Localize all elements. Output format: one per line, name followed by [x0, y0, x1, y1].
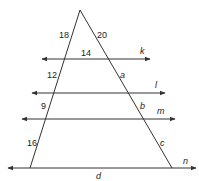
label-right-20: 20 [97, 30, 107, 40]
label-line-m: m [157, 106, 165, 116]
label-right-c: c [160, 138, 165, 148]
label-left-9: 9 [41, 101, 46, 111]
label-line-l: l [155, 80, 158, 90]
label-left-16: 16 [27, 138, 37, 148]
triangle-right-side [80, 10, 172, 168]
label-line-n: n [183, 156, 188, 166]
label-right-a: a [120, 70, 125, 80]
label-base-d: d [96, 171, 102, 181]
diagram: 18 12 9 16 20 a b c 14 d k l m n [0, 0, 199, 181]
label-left-12: 12 [47, 70, 57, 80]
label-right-b: b [140, 101, 145, 111]
label-k-segment: 14 [81, 48, 91, 58]
label-line-k: k [140, 46, 145, 56]
triangle-left-side [30, 10, 80, 168]
label-left-18: 18 [59, 30, 69, 40]
